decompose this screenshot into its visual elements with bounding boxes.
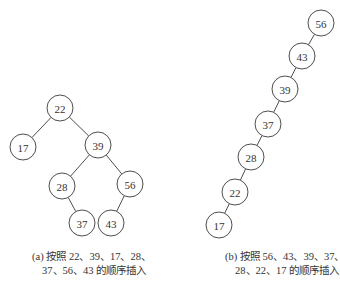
tree-a-node-43: 43 [98,210,124,236]
node-label: 56 [316,18,328,30]
tree-a-node-39: 39 [85,132,111,158]
tree-a-balanced-bst: 22173928563743 [10,95,143,236]
tree-a-edge-56-43 [117,196,125,212]
tree-a-edge-39-28 [71,155,90,176]
bst-diagram: 22173928563743 56433937282217 [0,0,340,284]
tree-b-caption-line2: 28、22、17 的顺序插入 [225,264,340,278]
node-label: 37 [77,218,89,230]
tree-a-node-22: 22 [47,95,73,121]
node-label: 39 [280,84,292,96]
tree-b-nodes: 56433937282217 [206,10,334,238]
tree-b-edge-39-37 [274,101,280,113]
tree-a-edges [32,117,124,211]
node-label: 22 [230,187,241,199]
tree-a-node-56: 56 [117,171,143,197]
tree-a-edge-22-39 [69,117,88,136]
node-label: 43 [297,51,309,63]
node-label: 56 [125,179,137,191]
tree-a-caption-line2: 37、56、43 的顺序插入 [32,264,151,278]
tree-b-caption-line1: (b) 按照 56、43、39、37、 [225,250,340,264]
tree-b-edge-56-43 [308,34,314,44]
node-label: 28 [57,181,69,193]
tree-b-edge-22-17 [225,204,230,214]
node-label: 37 [263,119,275,131]
tree-b-node-17: 17 [206,212,232,238]
tree-a-edge-39-56 [106,155,122,174]
node-label: 39 [93,140,105,152]
tree-b-edge-37-28 [257,136,262,146]
tree-b-node-43: 43 [289,43,315,69]
tree-b-node-39: 39 [272,76,298,102]
tree-b-node-28: 28 [238,144,264,170]
tree-b-edge-43-39 [291,68,296,78]
tree-a-node-28: 28 [49,173,75,199]
node-label: 17 [214,220,226,232]
tree-b-node-22: 22 [222,179,248,205]
tree-b-node-56: 56 [308,10,334,36]
tree-a-caption-line1: (a) 按照 22、39、17、28、 [32,250,151,264]
tree-b-edge-28-22 [240,169,245,180]
tree-a-edge-28-37 [68,197,76,211]
tree-b-node-37: 37 [255,111,281,137]
tree-b-caption: (b) 按照 56、43、39、37、 28、22、17 的顺序插入 [225,250,340,278]
node-label: 43 [106,218,118,230]
tree-a-node-17: 17 [10,134,36,160]
tree-a-caption: (a) 按照 22、39、17、28、 37、56、43 的顺序插入 [32,250,151,278]
tree-a-node-37: 37 [69,210,95,236]
node-label: 22 [55,103,66,115]
node-label: 28 [246,152,258,164]
node-label: 17 [18,142,30,154]
tree-b-degenerate-bst: 56433937282217 [206,10,334,238]
tree-a-nodes: 22173928563743 [10,95,143,236]
tree-a-edge-22-17 [32,117,51,137]
